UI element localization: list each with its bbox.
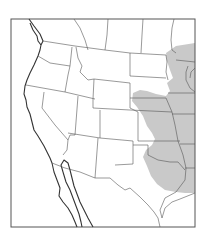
pacific-coastline xyxy=(24,19,52,163)
range-map xyxy=(0,0,210,241)
map-canvas xyxy=(0,0,210,241)
